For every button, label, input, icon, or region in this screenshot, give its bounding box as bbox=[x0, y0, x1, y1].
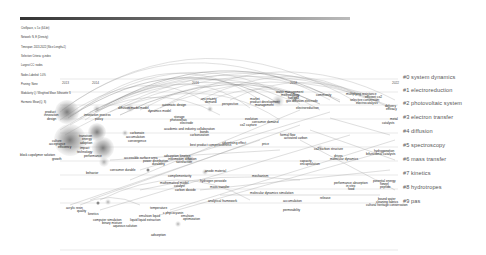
header-line: CiteSpace, v. 5.x (64-bit) bbox=[21, 27, 71, 30]
keyword-node-label[interactable]: design bbox=[47, 118, 56, 121]
cluster-label-3[interactable]: #3 electron transfer bbox=[403, 114, 453, 120]
cluster-label-5[interactable]: #5 spectroscopy bbox=[403, 142, 445, 148]
year-label: 2016 bbox=[192, 81, 199, 85]
year-label: 2014 bbox=[92, 81, 99, 85]
year-label: 2018 bbox=[290, 81, 297, 85]
keyword-node-label[interactable]: policy bbox=[95, 118, 103, 121]
keyword-node-label[interactable]: electrode bbox=[180, 122, 193, 125]
keyword-node-label[interactable]: optimization bbox=[183, 218, 200, 221]
keyword-node-label[interactable]: efficacy bbox=[386, 108, 397, 111]
header-line: Network: N, E (Density) bbox=[21, 36, 71, 39]
keyword-node-label[interactable]: adoption bbox=[80, 142, 92, 145]
header-line: Selection Criteria: g-index bbox=[21, 55, 71, 58]
keyword-node-label[interactable]: dynamics model bbox=[148, 110, 171, 113]
keyword-node-label[interactable]: carbonization bbox=[190, 134, 209, 137]
header-line: Largest CC: nodes bbox=[21, 64, 71, 67]
keyword-node-label[interactable]: efficiency bbox=[58, 146, 71, 149]
year-label: 2022 bbox=[392, 81, 399, 85]
keyword-node-label[interactable]: demand bbox=[205, 101, 217, 104]
keyword-node-label[interactable]: temperature bbox=[150, 207, 167, 210]
header-info: CiteSpace, v. 5.x (64-bit) Network: N, E… bbox=[21, 21, 71, 108]
keyword-node-label[interactable]: block copolymer solution bbox=[20, 154, 55, 157]
keyword-node-label[interactable]: food bbox=[348, 188, 354, 191]
keyword-node-label[interactable]: catalysts bbox=[382, 122, 394, 125]
keyword-node-label[interactable]: analytical framework bbox=[208, 200, 237, 203]
keyword-node-label[interactable]: quality bbox=[77, 210, 86, 213]
keyword-node-label[interactable]: release bbox=[320, 197, 330, 200]
keyword-node-label[interactable]: convergence bbox=[128, 140, 146, 143]
keyword-node-label[interactable]: perspective bbox=[222, 103, 238, 106]
keyword-node-label[interactable]: liquid liquid extraction bbox=[130, 219, 160, 222]
keyword-node-label[interactable]: diffusion model bbox=[118, 107, 139, 110]
keyword-node-label[interactable]: mechanism bbox=[252, 175, 268, 178]
keyword-node-label[interactable]: behavior bbox=[86, 172, 98, 175]
keyword-node-label[interactable]: carbon dioxide bbox=[175, 189, 196, 192]
keyword-node-label[interactable]: complementarity bbox=[168, 175, 191, 178]
keyword-node-label[interactable]: co2 capture bbox=[240, 124, 257, 127]
keyword-node-label[interactable]: community bbox=[316, 94, 331, 97]
keyword-node-label[interactable]: molecular dynamics simulation bbox=[250, 192, 293, 195]
keyword-node-label[interactable]: accumulation bbox=[283, 200, 302, 203]
keyword-node-label[interactable]: electroreduction bbox=[296, 107, 319, 110]
cluster-label-8[interactable]: #8 hydrotropes bbox=[403, 184, 442, 190]
cluster-label-4[interactable]: #4 diffusion bbox=[403, 128, 433, 134]
citation-arcs bbox=[60, 58, 395, 135]
cluster-label-1[interactable]: #1 electroreduction bbox=[403, 87, 452, 93]
keyword-node-label[interactable]: best product competitiveness bbox=[190, 144, 231, 147]
keyword-node-label[interactable]: price bbox=[262, 143, 269, 146]
header-line: Harmonic Mean(Q, S) bbox=[21, 101, 71, 104]
keyword-node-label[interactable]: molecular dynamics bbox=[330, 158, 358, 161]
keyword-node-label[interactable]: aqueous solution bbox=[113, 225, 137, 228]
year-label: 2013 bbox=[62, 81, 69, 85]
keyword-node-label[interactable]: consumer durable bbox=[110, 169, 136, 172]
keyword-node-label[interactable]: satisfaction bbox=[176, 161, 192, 164]
keyword-node-label[interactable]: growth bbox=[52, 158, 62, 161]
cluster-label-7[interactable]: #7 kinetics bbox=[403, 170, 431, 176]
cluster-label-0[interactable]: #0 system dynamics bbox=[403, 74, 455, 80]
keyword-node-label[interactable]: durability bbox=[152, 163, 165, 166]
keyword-node-label[interactable]: management bbox=[255, 104, 274, 107]
header-line: Modularity Q / Weighted Mean Silhouette … bbox=[21, 92, 71, 95]
header-line: Nodes Labeled: 1.0% bbox=[21, 74, 71, 77]
keyword-node-label[interactable]: anode material bbox=[205, 170, 226, 173]
cluster-label-6[interactable]: #6 mass transfer bbox=[403, 156, 446, 162]
keyword-node-label[interactable]: co2 carbon structure bbox=[314, 148, 343, 151]
keyword-node-label[interactable]: encapsulation bbox=[300, 163, 320, 166]
keyword-node-label[interactable]: performance bbox=[84, 155, 102, 158]
header-bar bbox=[20, 17, 350, 20]
header-line: Timespan: 2013-2022 (Slice Length=1) bbox=[21, 46, 71, 49]
keyword-node-label[interactable]: kinetics bbox=[88, 213, 99, 216]
keyword-node-label[interactable]: hydrogen peroxide bbox=[200, 180, 226, 183]
keyword-node-label[interactable]: bifunctional catalysts bbox=[366, 153, 395, 156]
keyword-node-label[interactable]: activated carbon bbox=[284, 137, 307, 140]
keyword-node-label[interactable]: cultural heritage conservation bbox=[366, 204, 408, 207]
keyword-node-label[interactable]: automatic design bbox=[162, 104, 186, 107]
keyword-node-label[interactable]: gas diffusion electrode bbox=[286, 100, 318, 103]
keyword-node-label[interactable]: peptide bbox=[380, 186, 390, 189]
keyword-node-label[interactable]: mass transfer bbox=[210, 186, 229, 189]
cluster-label-2[interactable]: #2 photovoltaic system bbox=[403, 100, 462, 106]
keyword-node-label[interactable]: permeability bbox=[283, 209, 300, 212]
keyword-node-label[interactable]: electrocatalysis bbox=[356, 102, 378, 105]
keyword-node-label[interactable]: adsorption bbox=[151, 234, 166, 237]
